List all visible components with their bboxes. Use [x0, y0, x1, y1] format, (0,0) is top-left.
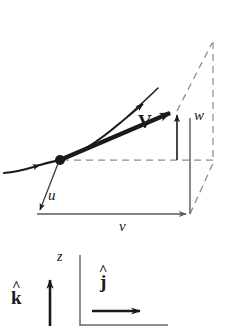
dashed-slant-upper	[177, 43, 212, 111]
dashed-slant-lower	[190, 161, 214, 214]
base-frame	[37, 118, 190, 214]
diagram-canvas	[0, 0, 236, 329]
j-hat-wrap: ^ j	[100, 272, 106, 291]
k-hat-wrap: ^ k	[11, 288, 22, 307]
unit-vector-j-label: ^ j	[100, 272, 106, 291]
j-hat-caret-icon: ^	[99, 263, 108, 278]
axis-z-label: z	[57, 250, 62, 264]
velocity-vector	[60, 113, 170, 160]
particle-point	[55, 155, 65, 165]
unit-vector-triad	[50, 255, 168, 326]
vector-v-label: V	[138, 112, 152, 131]
component-u-label: u	[48, 188, 56, 203]
component-v-label: v	[119, 219, 126, 234]
component-w-label: w	[194, 108, 204, 123]
k-hat-caret-icon: ^	[12, 279, 21, 294]
unit-vector-k-label: ^ k	[11, 288, 22, 307]
vector-components-figure: V w u v z ^ k ^ j	[0, 0, 236, 329]
